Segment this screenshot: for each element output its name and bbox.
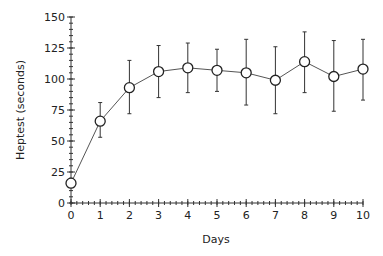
data-point-marker bbox=[124, 83, 134, 93]
y-tick-label: 75 bbox=[51, 104, 65, 117]
x-tick-label: 5 bbox=[214, 209, 221, 222]
data-point-marker bbox=[270, 75, 280, 85]
x-tick-label: 9 bbox=[330, 209, 337, 222]
data-point-marker bbox=[212, 65, 222, 75]
data-point-marker bbox=[183, 63, 193, 73]
x-tick-label: 6 bbox=[243, 209, 250, 222]
y-tick-label: 100 bbox=[44, 73, 65, 86]
y-axis-label: Heptest (seconds) bbox=[14, 60, 27, 160]
heptest-chart: 0255075100125150012345678910 Heptest (se… bbox=[0, 0, 383, 256]
x-tick-label: 0 bbox=[68, 209, 75, 222]
data-point-marker bbox=[329, 72, 339, 82]
x-axis-label: Days bbox=[202, 233, 230, 246]
x-tick-label: 8 bbox=[301, 209, 308, 222]
data-point-marker bbox=[300, 57, 310, 67]
data-point-marker bbox=[154, 67, 164, 77]
y-tick-label: 0 bbox=[58, 197, 65, 210]
data-series bbox=[66, 32, 368, 188]
y-tick-label: 150 bbox=[44, 11, 65, 24]
x-tick-label: 1 bbox=[97, 209, 104, 222]
data-point-marker bbox=[66, 178, 76, 188]
x-tick-label: 7 bbox=[272, 209, 279, 222]
y-tick-label: 50 bbox=[51, 135, 65, 148]
y-tick-label: 25 bbox=[51, 166, 65, 179]
x-tick-label: 10 bbox=[356, 209, 370, 222]
data-point-marker bbox=[358, 64, 368, 74]
x-tick-label: 4 bbox=[184, 209, 191, 222]
data-point-marker bbox=[241, 68, 251, 78]
x-tick-label: 2 bbox=[126, 209, 133, 222]
y-tick-label: 125 bbox=[44, 42, 65, 55]
axes: 0255075100125150012345678910 bbox=[44, 11, 370, 222]
x-tick-label: 3 bbox=[155, 209, 162, 222]
data-point-marker bbox=[95, 116, 105, 126]
